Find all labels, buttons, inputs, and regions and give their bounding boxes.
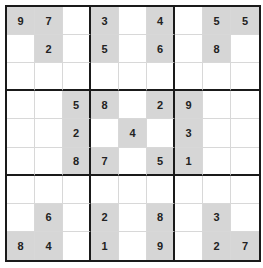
empty-cell[interactable] (63, 35, 91, 63)
empty-cell[interactable] (147, 176, 175, 204)
given-cell[interactable]: 8 (91, 91, 119, 119)
empty-cell[interactable] (203, 176, 231, 204)
empty-cell[interactable] (7, 63, 35, 91)
empty-cell[interactable] (35, 91, 63, 119)
given-cell[interactable]: 7 (91, 148, 119, 176)
given-cell[interactable]: 7 (35, 7, 63, 35)
empty-cell[interactable] (231, 176, 259, 204)
empty-cell[interactable] (63, 7, 91, 35)
empty-cell[interactable] (35, 148, 63, 176)
empty-cell[interactable] (63, 204, 91, 232)
empty-cell[interactable] (231, 204, 259, 232)
given-cell[interactable]: 6 (35, 204, 63, 232)
empty-cell[interactable] (147, 63, 175, 91)
given-cell[interactable]: 4 (35, 232, 63, 260)
empty-cell[interactable] (119, 91, 147, 119)
empty-cell[interactable] (91, 63, 119, 91)
empty-cell[interactable] (91, 176, 119, 204)
given-cell[interactable]: 7 (231, 232, 259, 260)
empty-cell[interactable] (175, 7, 203, 35)
empty-cell[interactable] (203, 148, 231, 176)
sudoku-board: 9734552568582924387516283841927 (5, 5, 261, 262)
empty-cell[interactable] (119, 35, 147, 63)
empty-cell[interactable] (175, 63, 203, 91)
empty-cell[interactable] (119, 148, 147, 176)
empty-cell[interactable] (7, 35, 35, 63)
given-cell[interactable]: 5 (63, 91, 91, 119)
empty-cell[interactable] (231, 119, 259, 147)
given-cell[interactable]: 3 (203, 204, 231, 232)
given-cell[interactable]: 2 (63, 119, 91, 147)
empty-cell[interactable] (231, 35, 259, 63)
empty-cell[interactable] (35, 176, 63, 204)
empty-cell[interactable] (63, 232, 91, 260)
given-cell[interactable]: 2 (203, 232, 231, 260)
empty-cell[interactable] (231, 63, 259, 91)
empty-cell[interactable] (7, 119, 35, 147)
empty-cell[interactable] (203, 91, 231, 119)
given-cell[interactable]: 2 (35, 35, 63, 63)
empty-cell[interactable] (119, 63, 147, 91)
given-cell[interactable]: 8 (7, 232, 35, 260)
empty-cell[interactable] (203, 119, 231, 147)
empty-cell[interactable] (231, 148, 259, 176)
given-cell[interactable]: 9 (147, 232, 175, 260)
given-cell[interactable]: 5 (203, 7, 231, 35)
given-cell[interactable]: 5 (147, 148, 175, 176)
given-cell[interactable]: 8 (203, 35, 231, 63)
given-cell[interactable]: 5 (91, 35, 119, 63)
empty-cell[interactable] (7, 204, 35, 232)
given-cell[interactable]: 9 (175, 91, 203, 119)
given-cell[interactable]: 8 (147, 204, 175, 232)
given-cell[interactable]: 4 (119, 119, 147, 147)
given-cell[interactable]: 6 (147, 35, 175, 63)
empty-cell[interactable] (119, 232, 147, 260)
given-cell[interactable]: 2 (91, 204, 119, 232)
empty-cell[interactable] (7, 148, 35, 176)
given-cell[interactable]: 1 (91, 232, 119, 260)
empty-cell[interactable] (231, 91, 259, 119)
given-cell[interactable]: 3 (175, 119, 203, 147)
empty-cell[interactable] (147, 119, 175, 147)
empty-cell[interactable] (7, 176, 35, 204)
empty-cell[interactable] (119, 204, 147, 232)
empty-cell[interactable] (175, 232, 203, 260)
given-cell[interactable]: 2 (147, 91, 175, 119)
given-cell[interactable]: 5 (231, 7, 259, 35)
empty-cell[interactable] (119, 176, 147, 204)
empty-cell[interactable] (7, 91, 35, 119)
empty-cell[interactable] (175, 35, 203, 63)
given-cell[interactable]: 9 (7, 7, 35, 35)
empty-cell[interactable] (119, 7, 147, 35)
empty-cell[interactable] (63, 63, 91, 91)
empty-cell[interactable] (35, 63, 63, 91)
given-cell[interactable]: 1 (175, 148, 203, 176)
empty-cell[interactable] (175, 176, 203, 204)
empty-cell[interactable] (35, 119, 63, 147)
empty-cell[interactable] (203, 63, 231, 91)
given-cell[interactable]: 8 (63, 148, 91, 176)
empty-cell[interactable] (63, 176, 91, 204)
empty-cell[interactable] (175, 204, 203, 232)
empty-cell[interactable] (91, 119, 119, 147)
given-cell[interactable]: 3 (91, 7, 119, 35)
given-cell[interactable]: 4 (147, 7, 175, 35)
